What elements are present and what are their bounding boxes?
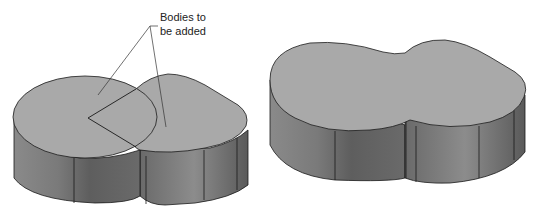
figure-separate-bodies: Bodies to be added [13,11,248,205]
callout-line-2: be added [160,25,206,37]
diagram-canvas: Bodies to be added [0,0,537,214]
cylinder-top-face [13,76,157,158]
combined-top-face [270,40,526,131]
figure-combined-body [270,40,526,183]
callout-line-1: Bodies to [160,11,206,23]
